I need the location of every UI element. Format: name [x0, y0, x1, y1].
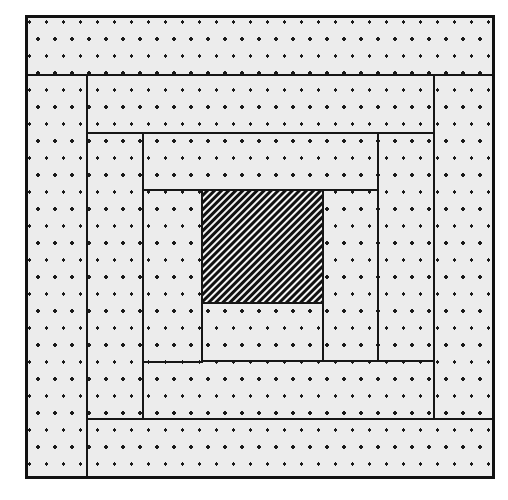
log-06-bottom-mid: [143, 361, 434, 419]
center-layer: [202, 190, 323, 303]
log-10-bottom-outer: [87, 419, 493, 477]
log-cabin-diagram: [0, 0, 508, 500]
center-square: [202, 190, 323, 303]
log-04-top-inner: [143, 133, 378, 190]
log-02-below-center: [202, 303, 323, 361]
log-11-left-outer: [26, 75, 87, 477]
log-03-left-inner: [143, 190, 202, 362]
log-09-right-outer: [434, 75, 493, 419]
log-07-left-mid: [87, 133, 143, 419]
log-08-top-mid: [87, 75, 434, 133]
log-01-right-of-center: [323, 190, 378, 361]
log-05-right-mid: [378, 133, 434, 361]
log-12-top-outer: [26, 16, 493, 75]
figure-canvas: [0, 0, 508, 500]
